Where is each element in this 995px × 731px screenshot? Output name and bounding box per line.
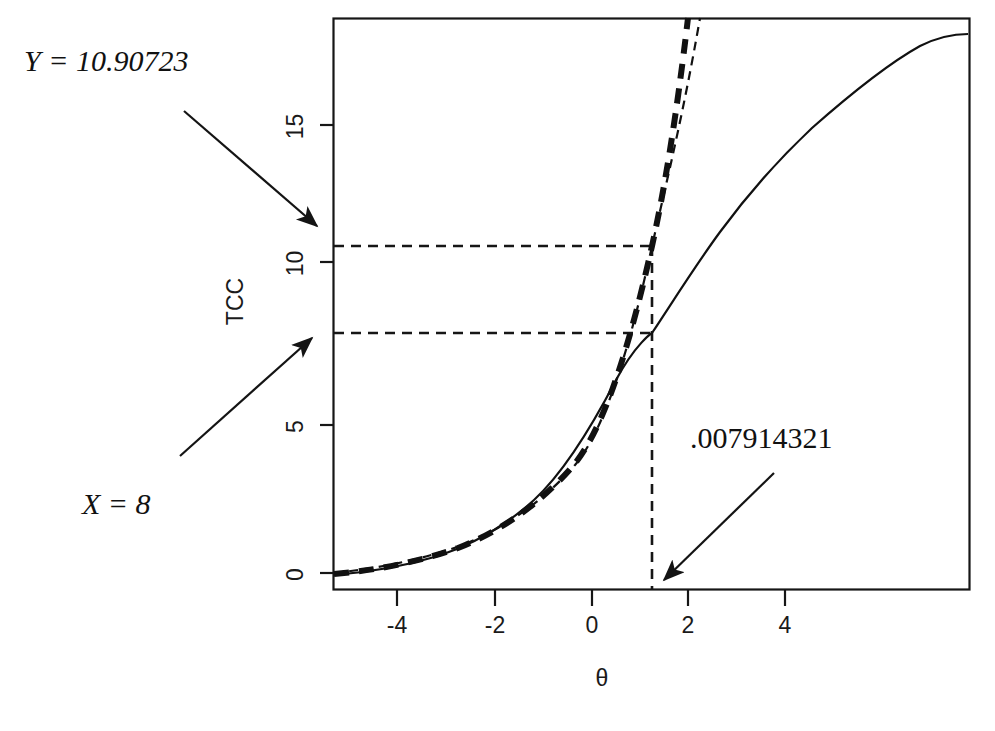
series-thick-dashed [334,18,688,574]
x-axis-title: θ [582,665,622,692]
reference-lines [334,246,653,590]
annotation-probability: .007914321 [690,421,833,455]
y-tick-label-15: 15 [282,113,309,141]
x-tick-label-0: 0 [572,612,612,639]
x-tick-label-4: 4 [765,612,805,639]
x-tick-label-neg4: -4 [377,612,417,639]
annotation-arrow-prob [664,473,774,580]
y-axis-ticks [320,125,333,573]
x-tick-label-2: 2 [668,612,708,639]
x-tick-label-neg2: -2 [475,612,515,639]
y-axis-title: TCC [222,273,249,331]
series-thin-dashed [334,18,700,573]
y-tick-label-5: 5 [282,417,309,437]
x-axis-ticks [397,590,785,606]
annotation-x-value: X = 8 [82,487,151,521]
y-tick-label-10: 10 [282,250,309,278]
y-tick-label-0: 0 [282,565,309,585]
annotation-y-value: Y = 10.90723 [24,44,188,78]
figure-canvas: Y = 10.90723 X = 8 .007914321 15 10 5 0 … [0,0,995,731]
annotation-arrow-x [180,338,312,456]
